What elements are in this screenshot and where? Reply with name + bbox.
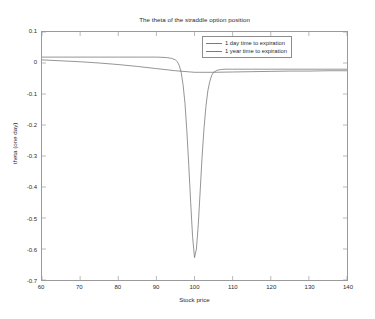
y-tick-label: -0.5	[3, 216, 37, 222]
x-tick-label: 120	[256, 284, 286, 290]
y-tick-label: -0.3	[3, 153, 37, 159]
y-tick-label: -0.6	[3, 247, 37, 253]
x-tick-label: 70	[64, 284, 94, 290]
y-tick-label: 0	[3, 59, 37, 65]
legend-item: 1 day time to expiration	[206, 39, 287, 47]
plot-lines	[42, 32, 347, 280]
x-axis-ticks: 60708090100110120130140	[41, 284, 348, 296]
plot-area	[41, 31, 348, 281]
legend-item: 1 year time to expiration	[206, 47, 287, 55]
x-tick-label: 100	[180, 284, 210, 290]
chart-legend: 1 day time to expiration 1 year time to …	[202, 36, 292, 58]
x-tick-label: 60	[26, 284, 56, 290]
y-axis-ticks: 0.10-0.1-0.2-0.3-0.4-0.5-0.6-0.7	[0, 31, 37, 281]
legend-item-label: 1 year time to expiration	[225, 47, 287, 55]
x-tick-label: 130	[295, 284, 325, 290]
legend-swatch-icon	[206, 51, 222, 52]
x-tick-label: 110	[218, 284, 248, 290]
legend-item-label: 1 day time to expiration	[225, 39, 285, 47]
x-axis-label: Stock price	[41, 296, 348, 303]
x-tick-label: 80	[103, 284, 133, 290]
y-tick-label: -0.2	[3, 122, 37, 128]
y-tick-label: -0.4	[3, 184, 37, 190]
x-tick-label: 140	[333, 284, 363, 290]
y-tick-label: 0.1	[3, 28, 37, 34]
chart-figure: The theta of the straddle option positio…	[0, 0, 375, 319]
chart-title: The theta of the straddle option positio…	[41, 16, 348, 23]
legend-swatch-icon	[206, 43, 222, 44]
x-tick-label: 90	[141, 284, 171, 290]
y-tick-label: -0.1	[3, 91, 37, 97]
